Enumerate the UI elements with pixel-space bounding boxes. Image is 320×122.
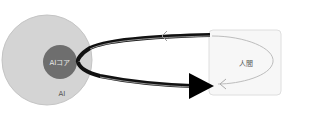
- ai-core-label: AIコア: [50, 57, 71, 67]
- human-label: 人間: [239, 58, 253, 68]
- ai-outer-label: AI: [59, 90, 66, 98]
